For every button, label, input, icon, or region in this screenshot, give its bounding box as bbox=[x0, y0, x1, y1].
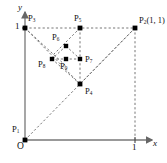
point-label-P2: P2(1, 1) bbox=[139, 16, 165, 26]
point-label-P4: P4 bbox=[85, 87, 92, 97]
point-label-P8-sub: 8 bbox=[43, 63, 46, 69]
point-label-P1-sub: 1 bbox=[17, 128, 20, 134]
point-label-P3: P3 bbox=[28, 14, 35, 24]
point-P8 bbox=[50, 57, 54, 61]
point-P5 bbox=[78, 26, 83, 31]
point-label-P8: P8 bbox=[38, 60, 45, 70]
y-axis-label: y bbox=[18, 3, 22, 12]
point-P3 bbox=[23, 26, 28, 31]
point-P2 bbox=[133, 26, 138, 31]
point-label-P7-sub: 7 bbox=[90, 58, 93, 64]
point-label-P6-sub: 6 bbox=[57, 36, 60, 42]
point-label-P5-sub: 5 bbox=[79, 17, 82, 23]
point-label-P3-sub: 3 bbox=[33, 17, 36, 23]
point-P6 bbox=[64, 44, 68, 48]
x-axis-label: x bbox=[153, 139, 157, 148]
x-tick-label-1: 1 bbox=[132, 143, 137, 152]
geometry-figure: y x O 1 1 P1 P2(1, 1) P3 P4 P5 P6 P7 P8 … bbox=[0, 0, 167, 163]
point-P7 bbox=[78, 57, 82, 61]
point-label-P9-sub: 9 bbox=[65, 65, 68, 71]
point-label-P2-coords: (1, 1) bbox=[146, 15, 164, 25]
point-label-P4-sub: 4 bbox=[90, 90, 93, 96]
point-label-P9: P9 bbox=[60, 62, 67, 72]
point-P4 bbox=[78, 82, 83, 87]
y-tick-label-1: 1 bbox=[15, 22, 20, 31]
point-label-P7: P7 bbox=[85, 55, 92, 65]
point-label-P6: P6 bbox=[52, 33, 59, 43]
point-label-P1: P1 bbox=[12, 125, 19, 135]
origin-label: O bbox=[17, 142, 24, 152]
point-label-P5: P5 bbox=[74, 14, 81, 24]
